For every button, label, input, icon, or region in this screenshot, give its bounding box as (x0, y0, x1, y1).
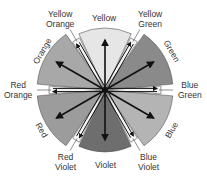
label-red-violet: Red Violet (55, 152, 76, 172)
label-yellow-green-line1: Yellow (138, 9, 162, 19)
label-red-orange: Red Orange (4, 80, 32, 100)
label-yellow-orange-line2: Orange (46, 19, 74, 29)
label-blue-green-line1: Blue (178, 80, 202, 90)
center-dot (102, 87, 108, 93)
label-red-orange-line1: Red (4, 80, 32, 90)
leader-line (70, 29, 77, 41)
label-yellow-orange-line1: Yellow (46, 9, 74, 19)
label-yellow-orange: Yellow Orange (46, 9, 74, 29)
label-yellow-green: Yellow Green (138, 9, 162, 29)
leader-line (70, 138, 77, 150)
label-red-violet-line1: Red (55, 152, 76, 162)
label-blue-violet-line2: Violet (138, 162, 159, 172)
leader-line (133, 29, 140, 41)
label-red-orange-line2: Orange (4, 90, 32, 100)
label-blue-violet: Blue Violet (138, 152, 159, 172)
label-yellow-green-line2: Green (138, 19, 162, 29)
label-blue-green: Blue Green (178, 80, 202, 100)
leader-line (133, 138, 140, 150)
label-red-violet-line2: Violet (55, 162, 76, 172)
label-yellow: Yellow (92, 13, 116, 23)
label-blue-violet-line1: Blue (138, 152, 159, 162)
label-violet: Violet (95, 160, 116, 170)
label-blue-green-line2: Green (178, 90, 202, 100)
